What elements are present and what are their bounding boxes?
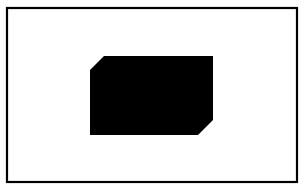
diagram-canvas (0, 0, 306, 188)
chamfered-block-shape (90, 56, 213, 135)
